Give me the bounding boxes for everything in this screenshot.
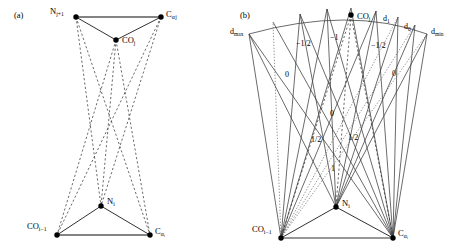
fan-left-ray-2 [273, 22, 281, 238]
fan-left-ray-d1 [281, 17, 398, 238]
fan-left-ray-5 [281, 8, 351, 238]
figure-canvas: .solid{stroke:#1a1a1a;stroke-width:0.9;f… [0, 0, 471, 252]
panel-b-tag: (b) [240, 11, 250, 20]
node-COj-b [348, 12, 353, 17]
node-label-COiminus1-b: COi−1 [252, 225, 272, 235]
node-Calphai-a [147, 232, 152, 237]
ni-ray-6 [336, 11, 376, 207]
value-label-half-right: 1/2 [348, 134, 358, 142]
hbond-COj-Ni [101, 40, 116, 206]
node-label-Ni-b: Ni [342, 199, 350, 209]
ray-COj-COiminus1 [281, 15, 351, 238]
value-label-neg-half-left: −1/2 [296, 40, 311, 48]
node-label-COj-b: COj [357, 12, 370, 22]
figure-svg: .solid{stroke:#1a1a1a;stroke-width:0.9;f… [0, 0, 471, 252]
edge-Calphai-Ni [101, 206, 150, 235]
panel-b-graphics [249, 8, 427, 241]
hbond-Njplus1-Ni [76, 17, 101, 206]
node-label-Ni-a: Ni [107, 197, 115, 207]
node-COiminus1-b [278, 235, 283, 240]
d-max-label: dmax [230, 28, 243, 37]
value-label-one: 1 [331, 165, 335, 173]
node-Ni-a [98, 203, 103, 208]
node-label-Njplus1: Nj+1 [50, 7, 64, 17]
node-label-Calphai-b: Cα i [398, 229, 408, 240]
node-label-Calphaj: Cα j [166, 10, 177, 20]
ni-ray-dmin [336, 34, 427, 207]
node-Calphaj [158, 14, 163, 19]
value-label-neg-half-right: −1/2 [371, 42, 386, 50]
panel-a-tag: (a) [14, 11, 23, 20]
fan-left-ray-dmax [249, 34, 281, 238]
value-label-neg-one: −1 [330, 34, 339, 42]
node-COj-a [113, 37, 118, 42]
d-min-label: dmin [431, 28, 443, 37]
fan-ray-d1 [393, 17, 398, 238]
node-Ni-b [333, 204, 338, 209]
value-label-zero-center: 0 [330, 110, 334, 118]
edge-Njplus1-COj [76, 17, 116, 40]
d-1-label: d1 [383, 15, 390, 24]
d-0-label: d0 [404, 23, 411, 32]
value-label-zero-left: 0 [285, 71, 289, 79]
node-label-COj-a: COj [122, 36, 135, 46]
hbond-COj-Calphai [116, 40, 150, 235]
fan-ray-d0 [393, 25, 415, 238]
ni-ray-d0 [336, 25, 415, 207]
node-label-COiminus1-a: COi−1 [27, 222, 47, 232]
node-Calphai-b [390, 235, 395, 240]
node-Njplus1 [73, 14, 78, 19]
value-label-zero-right: 0 [392, 70, 396, 78]
value-label-half-left: 1/2 [311, 136, 321, 144]
node-label-Calphai-a: Cα i [155, 227, 165, 238]
node-COiminus1-a [54, 232, 59, 237]
